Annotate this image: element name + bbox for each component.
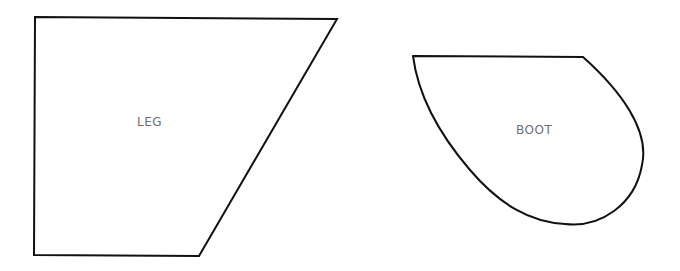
pattern-diagram — [0, 0, 680, 271]
boot-label: BOOT — [516, 123, 552, 137]
boot-shape — [413, 56, 643, 224]
leg-label: LEG — [137, 115, 162, 129]
leg-shape — [34, 17, 337, 256]
